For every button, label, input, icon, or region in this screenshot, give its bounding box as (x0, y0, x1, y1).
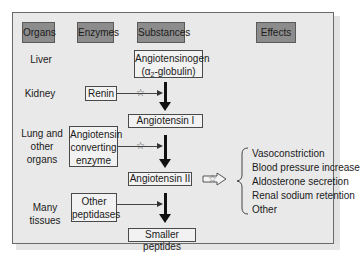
arrow-down-icon (159, 214, 171, 223)
peptidases-connector-line (117, 204, 158, 205)
star-icon: ☆ (208, 174, 217, 184)
arrow-right-icon (157, 201, 163, 207)
effect-item: Renal sodium retention (252, 189, 355, 202)
organ-many-tissues: Many tissues (18, 201, 72, 227)
arrow-down-icon (159, 102, 171, 111)
enzyme-other-peptidases: Other peptidases (71, 193, 117, 222)
header-enzymes: Enzymes (77, 22, 114, 43)
organ-lung-line3: organs (20, 153, 64, 166)
effect-item: Blood pressure increase (252, 161, 360, 174)
substance-angiotensin-1: Angiotensin I (128, 114, 203, 128)
angiotensinogen-line2: (α2-globulin) (135, 65, 202, 81)
arrow-down-icon (159, 159, 171, 168)
enzyme-ace-line1: Angiotensin (70, 128, 117, 141)
organ-lung-line1: Lung and (20, 127, 64, 140)
arrow-right-icon (157, 90, 163, 96)
effect-item: Other (252, 203, 277, 216)
header-substances: Substances (137, 22, 185, 43)
substance-angiotensinogen: Angiotensinogen (α2-globulin) (134, 50, 203, 78)
substance-smaller-peptides: Smaller peptides (128, 228, 196, 242)
enzyme-other-line1: Other (72, 195, 116, 208)
header-effects: Effects (256, 22, 296, 43)
organ-lung-line2: other (20, 140, 64, 153)
effect-item: Vasoconstriction (252, 147, 325, 160)
header-organs: Organs (22, 22, 55, 43)
arrow-down-shaft (164, 82, 167, 103)
enzyme-renin: Renin (85, 86, 117, 101)
enzyme-ace-line3: enzyme (70, 154, 117, 167)
star-icon: ☆ (136, 88, 145, 98)
panel-shadow-right (334, 16, 340, 248)
arrow-down-shaft (164, 135, 167, 160)
arrow-down-shaft (164, 193, 167, 215)
arrow-right-icon (157, 143, 163, 149)
organ-kidney: Kidney (22, 87, 58, 100)
enzyme-ace-line2: converting (70, 141, 117, 154)
star-icon: ☆ (136, 141, 145, 151)
substance-angiotensin-2: Angiotensin II (128, 172, 192, 186)
organ-liver: Liver (26, 53, 56, 66)
angiotensinogen-line1: Angiotensinogen (135, 52, 202, 65)
enzyme-other-line2: peptidases (72, 208, 116, 221)
effect-item: Aldosterone secretion (252, 175, 349, 188)
brace-icon (236, 146, 250, 216)
enzyme-ace: Angiotensin converting enzyme (69, 126, 118, 167)
